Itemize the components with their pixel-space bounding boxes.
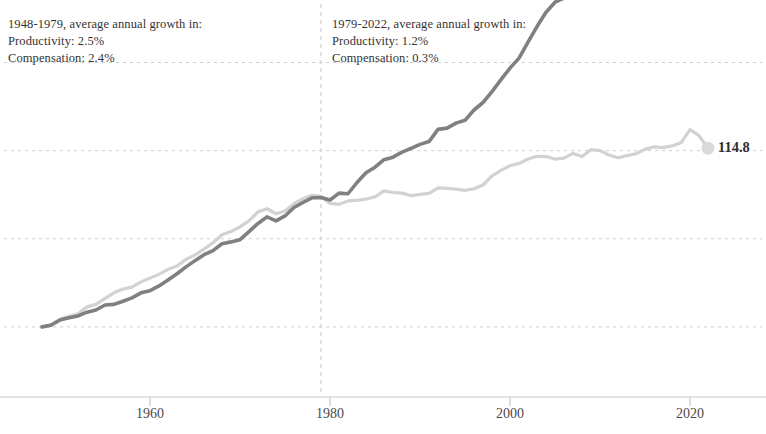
compensation-end-label: 114.8 [718, 139, 750, 156]
gridlines-group [4, 63, 762, 327]
annotation-right: 1979-2022, average annual growth in: Pro… [332, 16, 526, 67]
compensation-line [42, 130, 708, 327]
x-tick-label-1980: 1980 [316, 406, 344, 422]
annotation-right-line3: Compensation: 0.3% [332, 50, 526, 67]
compensation-endpoint-marker [702, 142, 715, 155]
x-tick-label-2020: 2020 [676, 406, 704, 422]
annotation-left: 1948-1979, average annual growth in: Pro… [8, 16, 202, 67]
annotation-right-line1: 1979-2022, average annual growth in: [332, 16, 526, 33]
x-tick-label-2000: 2000 [496, 406, 524, 422]
x-tick-label-1960: 1960 [136, 406, 164, 422]
x-axis-ticks-group [150, 397, 690, 406]
annotation-left-line3: Compensation: 2.4% [8, 50, 202, 67]
productivity-pay-gap-chart: 1948-1979, average annual growth in: Pro… [0, 0, 766, 434]
annotation-right-line2: Productivity: 1.2% [332, 33, 526, 50]
annotation-left-line2: Productivity: 2.5% [8, 33, 202, 50]
annotation-left-line1: 1948-1979, average annual growth in: [8, 16, 202, 33]
